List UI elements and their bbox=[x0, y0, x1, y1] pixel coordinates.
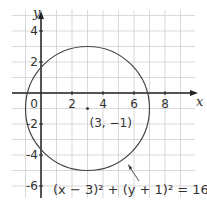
annotations: (3, −1)(x − 3)² + (y + 1)² = 16 bbox=[53, 107, 207, 197]
y-tick-label: 4 bbox=[30, 24, 38, 38]
y-tick-label: 2 bbox=[30, 55, 38, 69]
y-tick-label: -6 bbox=[26, 179, 38, 193]
center-point-dot bbox=[86, 107, 89, 110]
x-tick-label: 8 bbox=[161, 97, 169, 111]
x-tick-label: 0 bbox=[30, 97, 38, 111]
y-tick-label: -2 bbox=[26, 117, 38, 131]
center-point-label: (3, −1) bbox=[90, 116, 132, 130]
x-tick-label: 4 bbox=[99, 97, 107, 111]
axes: xy bbox=[12, 5, 204, 198]
y-tick-label: -4 bbox=[26, 148, 38, 162]
leader-arrow-icon bbox=[128, 164, 133, 170]
x-tick-label: 2 bbox=[68, 97, 76, 111]
coordinate-plane-figure: xy 0246842-2-4-6 (3, −1)(x − 3)² + (y + … bbox=[0, 0, 207, 214]
x-tick-label: 6 bbox=[130, 97, 138, 111]
equation-label: (x − 3)² + (y + 1)² = 16 bbox=[53, 182, 207, 197]
chart-canvas: xy 0246842-2-4-6 (3, −1)(x − 3)² + (y + … bbox=[0, 0, 207, 214]
y-axis-label: y bbox=[32, 5, 41, 20]
x-axis-label: x bbox=[196, 94, 204, 109]
